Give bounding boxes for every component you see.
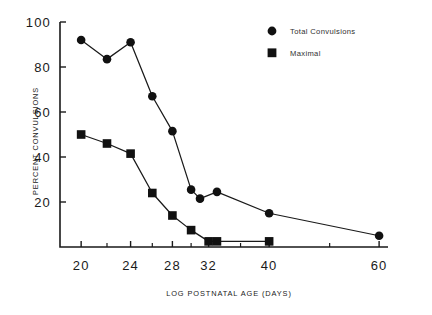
data-point-1-6 (204, 237, 213, 246)
legend-label-total-convulsions: Total Convulsions (290, 27, 355, 36)
data-point-1-5 (187, 226, 196, 235)
y-tick-label-100: 100 (26, 15, 51, 30)
legend-square-icon (268, 48, 277, 57)
x-tick-label-20: 20 (73, 258, 90, 273)
x-tick-label-60: 60 (371, 258, 388, 273)
legend-circle-icon (268, 27, 277, 36)
chart-figure: 20406080100 202428324060 PERCENT CONVULS… (0, 0, 432, 315)
data-point-1-1 (103, 139, 112, 148)
data-point-0-2 (126, 38, 135, 47)
data-point-1-0 (77, 130, 86, 139)
data-point-1-3 (148, 189, 157, 198)
data-point-0-4 (168, 127, 177, 136)
data-point-1-2 (126, 149, 135, 158)
data-point-0-8 (265, 209, 274, 218)
y-tick-label-20: 20 (34, 195, 51, 210)
legend-label-maximal: Maximal (290, 49, 321, 58)
y-tick-label-80: 80 (34, 60, 51, 75)
y-axis-title: PERCENT CONVULSIONS (31, 87, 40, 195)
convulsions-line-chart: 20406080100 202428324060 PERCENT CONVULS… (0, 0, 432, 315)
data-point-0-7 (213, 188, 222, 197)
data-point-0-0 (77, 36, 86, 45)
x-tick-label-24: 24 (122, 258, 139, 273)
x-tick-label-28: 28 (164, 258, 181, 273)
x-tick-label-40: 40 (261, 258, 278, 273)
x-tick-label-32: 32 (200, 258, 217, 273)
data-point-1-8 (265, 237, 274, 246)
data-point-0-3 (148, 92, 157, 101)
data-point-0-1 (103, 55, 112, 64)
data-point-0-9 (375, 231, 384, 240)
data-point-0-5 (187, 185, 196, 194)
data-point-1-4 (168, 211, 177, 220)
data-point-0-6 (196, 194, 205, 203)
data-point-1-7 (213, 237, 222, 246)
x-axis-title: LOG POSTNATAL AGE (DAYS) (166, 289, 292, 298)
